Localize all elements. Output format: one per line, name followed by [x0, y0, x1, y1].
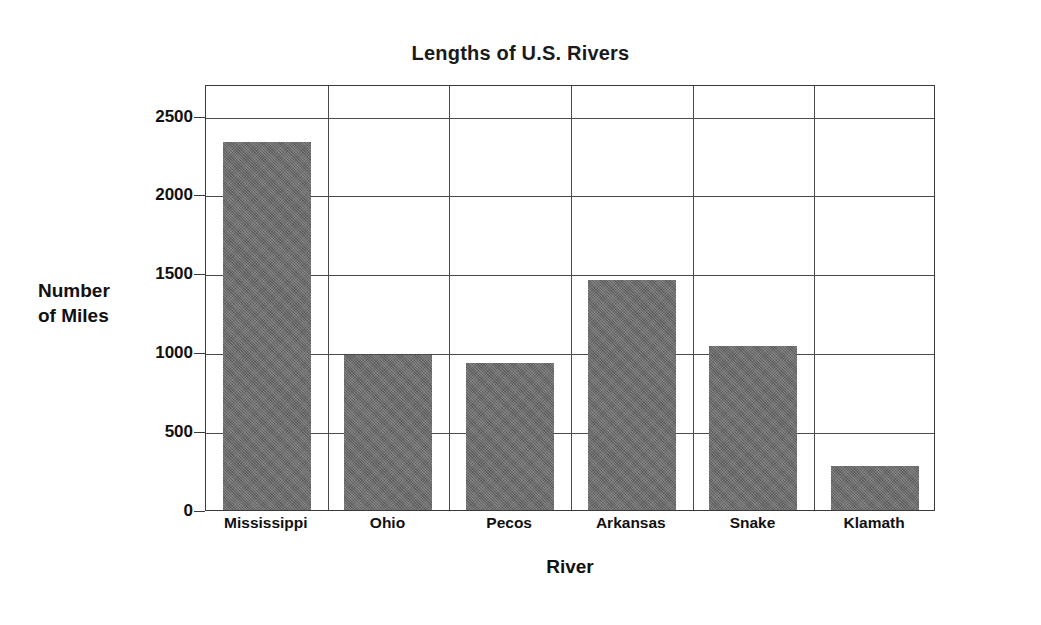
x-axis-title: River	[205, 556, 935, 578]
x-axis-tick-label: Arkansas	[570, 514, 692, 532]
y-axis-tick-label: 1000	[103, 343, 193, 363]
y-axis-tick-label: 2000	[103, 185, 193, 205]
y-axis-tick-mark	[194, 432, 205, 433]
y-axis-tick-mark	[194, 274, 205, 275]
bar-slot	[449, 86, 571, 510]
y-axis-tick-mark	[194, 117, 205, 118]
bar	[588, 280, 676, 510]
y-axis-tick-label: 1500	[103, 264, 193, 284]
bar-slot	[328, 86, 450, 510]
y-axis-tick-mark	[194, 195, 205, 196]
x-axis-tick-label: Mississippi	[205, 514, 327, 532]
bar	[223, 142, 311, 510]
bar-slot	[206, 86, 328, 510]
x-axis-tick-labels: MississippiOhioPecosArkansasSnakeKlamath	[205, 514, 935, 542]
y-axis-tick-labels: 05001000150020002500	[90, 85, 193, 511]
bar-series	[206, 86, 934, 510]
bar	[831, 466, 919, 510]
bar	[466, 363, 554, 510]
x-axis-tick-label: Klamath	[813, 514, 935, 532]
y-axis-tick-mark	[194, 511, 205, 512]
x-axis-tick-label: Snake	[692, 514, 814, 532]
x-axis-tick-label: Ohio	[327, 514, 449, 532]
y-axis-tick-label: 2500	[103, 107, 193, 127]
chart-figure: Lengths of U.S. Rivers Number of Miles 0…	[0, 0, 1041, 625]
chart-title: Lengths of U.S. Rivers	[0, 42, 1041, 65]
bar-slot	[814, 86, 936, 510]
plot-area	[205, 85, 935, 511]
y-axis-tick-label: 500	[103, 422, 193, 442]
y-axis-tick-mark	[194, 353, 205, 354]
bar-slot	[571, 86, 693, 510]
bar	[344, 355, 432, 510]
bar-slot	[693, 86, 815, 510]
bar	[709, 346, 797, 510]
y-axis-tick-label: 0	[103, 501, 193, 521]
x-axis-tick-label: Pecos	[448, 514, 570, 532]
